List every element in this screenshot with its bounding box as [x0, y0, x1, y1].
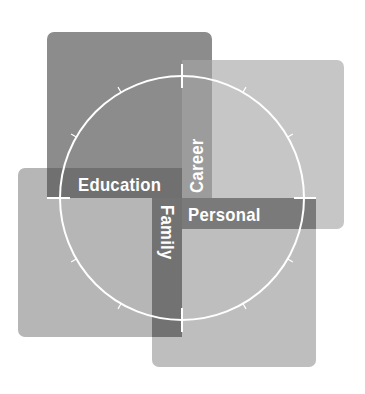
education-label: Education — [78, 175, 161, 194]
circle-overlay — [0, 0, 365, 394]
family-label: Family — [158, 205, 177, 260]
career-label: Career — [187, 138, 206, 193]
life-areas-diagram: Education Personal Career Family — [0, 0, 365, 394]
minor-ticks — [71, 87, 293, 309]
personal-label: Personal — [188, 205, 261, 224]
life-circle — [60, 76, 304, 320]
